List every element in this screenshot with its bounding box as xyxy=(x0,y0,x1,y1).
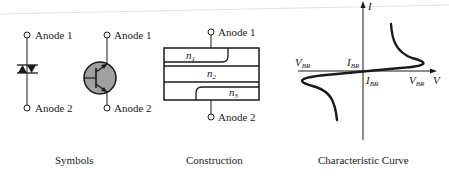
ibr-bottom-label: IBR xyxy=(365,74,379,88)
triangle-up-icon xyxy=(18,65,27,73)
caption-characteristic-curve: Characteristic Curve xyxy=(318,154,409,166)
terminal-anode2-icon xyxy=(24,105,30,111)
terminal-anode2-icon xyxy=(104,105,110,111)
characteristic-curve-plot xyxy=(298,1,437,140)
transistor-anode2-label: Anode 2 xyxy=(114,102,152,114)
transistor-symbol xyxy=(84,32,116,111)
diac-anode2-label: Anode 2 xyxy=(35,102,73,114)
scan-edge-line xyxy=(0,5,449,14)
diac-symbol xyxy=(17,32,38,111)
terminal-anode2-icon xyxy=(208,114,214,120)
triangle-down-icon xyxy=(27,65,36,73)
terminal-anode1-icon xyxy=(104,32,110,38)
diac-anode1-label: Anode 1 xyxy=(35,29,73,41)
construction-anode2-label: Anode 2 xyxy=(218,111,256,123)
construction-anode1-label: Anode 1 xyxy=(218,26,256,38)
ibr-top-label: IBR xyxy=(346,56,360,70)
caption-symbols: Symbols xyxy=(55,154,94,166)
terminal-anode1-icon xyxy=(24,32,30,38)
vbr-left-label: VBR xyxy=(295,56,311,70)
y-axis-arrow-icon xyxy=(361,1,366,8)
y-axis-label: I xyxy=(367,0,373,12)
transistor-anode1-label: Anode 1 xyxy=(114,29,152,41)
x-axis-label: V xyxy=(433,74,441,86)
caption-construction: Construction xyxy=(186,154,243,166)
terminal-anode1-icon xyxy=(208,29,214,35)
diac-figure: Anode 1 Anode 2 Anode 1 Anode 2 n1 n2 n3 xyxy=(0,0,449,176)
x-axis-arrow-icon xyxy=(430,69,437,74)
vbr-right-label: VBR xyxy=(409,74,425,88)
